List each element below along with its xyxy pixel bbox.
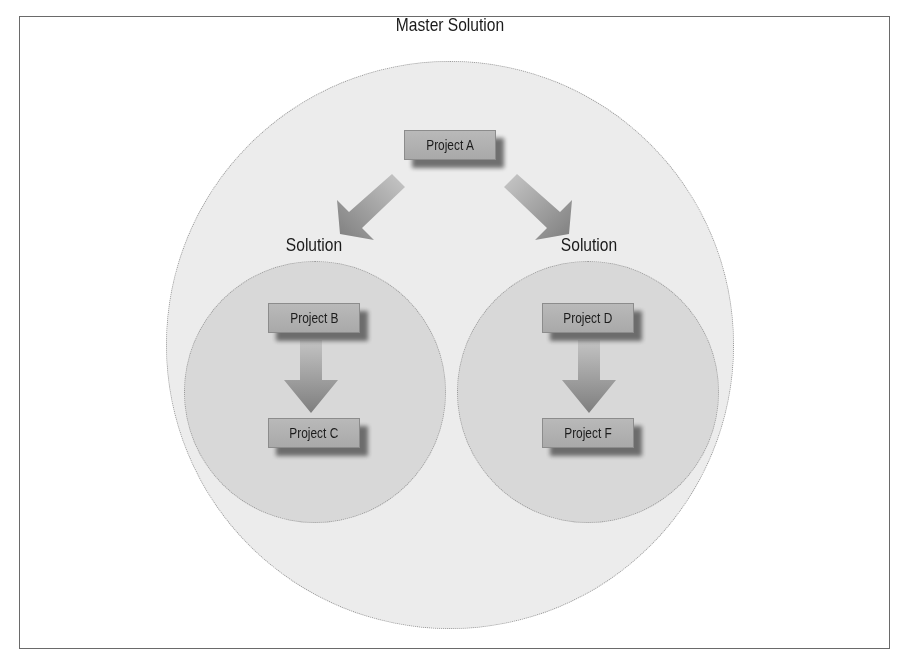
box-face: Project D — [542, 303, 634, 333]
solution-title-left: Solution — [257, 234, 372, 256]
solution-title-right: Solution — [532, 234, 647, 256]
project-d-box: Project D — [542, 303, 634, 333]
project-a-label: Project A — [426, 137, 474, 153]
box-face: Project C — [268, 418, 360, 448]
project-c-label: Project C — [290, 425, 339, 441]
solution-circle-left — [184, 261, 446, 523]
project-b-box: Project B — [268, 303, 360, 333]
project-d-label: Project D — [564, 310, 613, 326]
project-a-box: Project A — [404, 130, 496, 160]
project-f-box: Project F — [542, 418, 634, 448]
box-face: Project A — [404, 130, 496, 160]
box-face: Project F — [542, 418, 634, 448]
project-f-label: Project F — [564, 425, 612, 441]
project-c-box: Project C — [268, 418, 360, 448]
project-b-label: Project B — [290, 310, 338, 326]
box-face: Project B — [268, 303, 360, 333]
master-solution-title: Master Solution — [368, 14, 532, 36]
solution-circle-right — [457, 261, 719, 523]
